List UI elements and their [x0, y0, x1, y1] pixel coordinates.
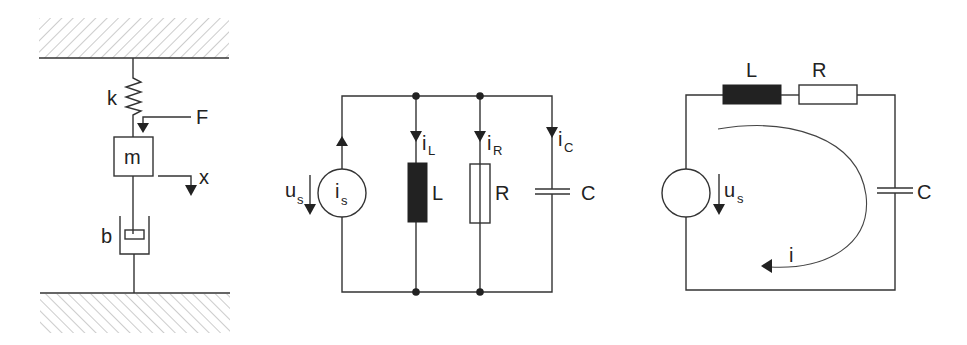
source-voltage-subscript: s [297, 192, 304, 207]
capacitor-label: C [581, 182, 595, 204]
series-source-voltage-subscript: s [737, 191, 744, 206]
top-wire [342, 96, 552, 189]
inductor-current-arrowhead-icon [410, 131, 422, 142]
node-bottom-2 [476, 288, 484, 296]
node-top-2 [476, 92, 484, 100]
figure-canvas: k F m x b i s u s [0, 0, 967, 345]
force-arrow [143, 117, 191, 124]
series-capacitor-label: C [917, 181, 931, 203]
series-source-voltage-label: u [724, 179, 735, 201]
displacement-arrow [158, 176, 191, 186]
mass-label: m [124, 146, 141, 168]
resistor-current-label: i [487, 132, 491, 154]
series-resistor-icon [799, 85, 857, 104]
damper-label: b [101, 225, 112, 247]
node-bottom-1 [412, 288, 420, 296]
damper-piston [125, 230, 144, 239]
loop-current-label: i [789, 244, 793, 266]
capacitor-current-label: i [558, 128, 562, 150]
voltage-source-icon [662, 169, 710, 217]
series-resistor-label: R [812, 59, 826, 81]
floor-hatching [40, 294, 230, 333]
parallel-rlc-panel: i s u s i L L i R R i C C [285, 92, 595, 296]
left-top-wire [686, 95, 723, 169]
series-source-voltage-arrowhead-icon [713, 204, 725, 215]
source-current-arrowhead-icon [336, 136, 348, 146]
series-inductor-label: L [746, 59, 757, 81]
capacitor-current-arrowhead-icon [546, 127, 558, 138]
bottom-wire [342, 194, 552, 292]
right-wire-top [857, 95, 895, 188]
source-voltage-arrowhead-icon [304, 204, 316, 215]
ceiling-hatching [39, 18, 229, 58]
loop-current-arrowhead-icon [761, 259, 772, 273]
inductor-icon [408, 163, 427, 222]
node-top-1 [412, 92, 420, 100]
inductor-current-subscript: L [428, 143, 435, 158]
inductor-current-label: i [422, 132, 426, 154]
series-rlc-panel: L R C u s i [662, 59, 931, 290]
source-voltage-label: u [285, 179, 296, 201]
resistor-current-subscript: R [493, 143, 502, 158]
mechanical-system-panel: k F m x b [39, 18, 230, 333]
force-arrowhead-icon [137, 123, 149, 133]
inductor-label: L [432, 182, 443, 204]
source-current-label: i [335, 180, 339, 202]
capacitor-current-subscript: C [564, 140, 573, 155]
resistor-label: R [495, 182, 509, 204]
force-label: F [196, 106, 208, 128]
displacement-label: x [199, 166, 209, 188]
displacement-arrowhead-icon [185, 185, 197, 196]
resistor-current-arrowhead-icon [474, 131, 486, 142]
series-inductor-icon [723, 85, 781, 104]
spring-label: k [107, 87, 118, 109]
source-current-subscript: s [341, 193, 348, 208]
